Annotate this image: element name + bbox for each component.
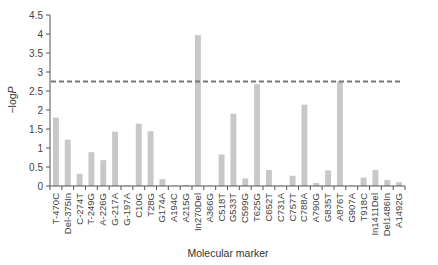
- bars: [53, 35, 402, 186]
- x-tick-label: A876T: [334, 193, 345, 221]
- bar: [77, 174, 83, 186]
- x-axis: T-470CDel-375InC-274TT-249GA-226GG-217AG…: [50, 186, 405, 236]
- bar: [112, 132, 118, 186]
- bar: [384, 180, 390, 186]
- x-tick-label: C10G: [133, 193, 144, 218]
- y-axis-title: −logP: [6, 86, 18, 113]
- x-tick-label: T-470C: [50, 193, 61, 224]
- bar: [266, 170, 272, 186]
- y-axis: 00.511.522.533.544.5: [29, 10, 50, 192]
- bar: [254, 84, 260, 186]
- y-tick-label: 2.5: [29, 86, 43, 97]
- x-tick-label: A215G: [180, 193, 191, 223]
- x-tick-label: A790G: [310, 193, 321, 223]
- x-tick-label: Del1486In: [381, 193, 392, 236]
- x-tick-label: C788A: [298, 192, 309, 222]
- bar: [88, 152, 94, 186]
- x-tick-label: T918C: [358, 193, 369, 222]
- x-tick-label: C-274T: [74, 193, 85, 225]
- bar: [195, 35, 201, 186]
- x-tick-label: G-197A: [121, 192, 132, 225]
- x-tick-label: C599G: [239, 193, 250, 223]
- bar: [136, 124, 142, 186]
- x-tick-label: A1492G: [393, 193, 404, 228]
- y-tick-label: 3.5: [29, 48, 43, 59]
- x-tick-label: G907A: [346, 192, 357, 222]
- bar: [301, 105, 307, 186]
- x-tick-label: Del-375In: [62, 193, 73, 234]
- x-tick-label: T28G: [145, 193, 156, 217]
- x-tick-label: C518T: [216, 193, 227, 222]
- y-tick-label: 1: [37, 143, 43, 154]
- y-tick-label: 4: [37, 29, 43, 40]
- y-tick-label: 0.5: [29, 162, 43, 173]
- x-tick-label: T-249G: [85, 193, 96, 225]
- x-tick-label: G174A: [156, 192, 167, 222]
- bar: [396, 182, 402, 186]
- bar: [337, 82, 343, 187]
- x-tick-label: G533T: [227, 193, 238, 222]
- y-tick-label: 4.5: [29, 10, 43, 21]
- x-tick-label: T625G: [251, 193, 262, 222]
- x-tick-label: G-217A: [109, 192, 120, 225]
- y-tick-label: 0: [37, 181, 43, 192]
- x-tick-label: A366G: [204, 193, 215, 223]
- bar: [159, 179, 165, 186]
- bar: [230, 114, 236, 186]
- bar: [219, 154, 225, 186]
- y-tick-label: 3: [37, 67, 43, 78]
- x-tick-label: G835T: [322, 193, 333, 222]
- x-tick-label: In270Del: [192, 193, 203, 231]
- x-tick-label: A194C: [168, 193, 179, 222]
- x-tick-label: C731A: [275, 192, 286, 222]
- bar: [290, 176, 296, 186]
- bar: [148, 131, 154, 186]
- bar: [53, 118, 59, 186]
- bar: [65, 140, 71, 186]
- y-tick-label: 1.5: [29, 124, 43, 135]
- x-tick-label: C652T: [263, 193, 274, 222]
- bar: [372, 170, 378, 186]
- x-tick-label: In1411Del: [369, 193, 380, 236]
- bar: [325, 170, 331, 186]
- bar: [361, 178, 367, 186]
- bar: [100, 160, 106, 186]
- x-tick-label: A-226G: [97, 193, 108, 226]
- bar: [242, 178, 248, 186]
- y-tick-label: 2: [37, 105, 43, 116]
- bar-chart: 00.511.522.533.544.5 T-470CDel-375InC-27…: [0, 0, 438, 265]
- x-tick-label: C757T: [287, 193, 298, 222]
- x-axis-title: Molecular marker: [187, 247, 269, 259]
